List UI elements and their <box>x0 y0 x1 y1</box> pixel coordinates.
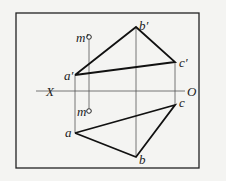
label-c: c <box>179 95 185 110</box>
label-a: a <box>65 125 72 140</box>
point-m <box>87 109 92 114</box>
frame <box>16 13 199 168</box>
label-axis-x: X <box>45 84 55 99</box>
label-m-prime: m′ <box>76 30 88 45</box>
label-a-prime: a′ <box>64 68 74 83</box>
label-axis-o: O <box>187 84 197 99</box>
projection-diagram: m′ b′ a′ c′ X O m a c b <box>0 0 226 181</box>
label-b: b <box>139 152 146 167</box>
label-c-prime: c′ <box>179 55 188 70</box>
triangle-front-view <box>75 27 175 75</box>
label-m: m <box>77 104 86 119</box>
label-b-prime: b′ <box>139 18 149 33</box>
